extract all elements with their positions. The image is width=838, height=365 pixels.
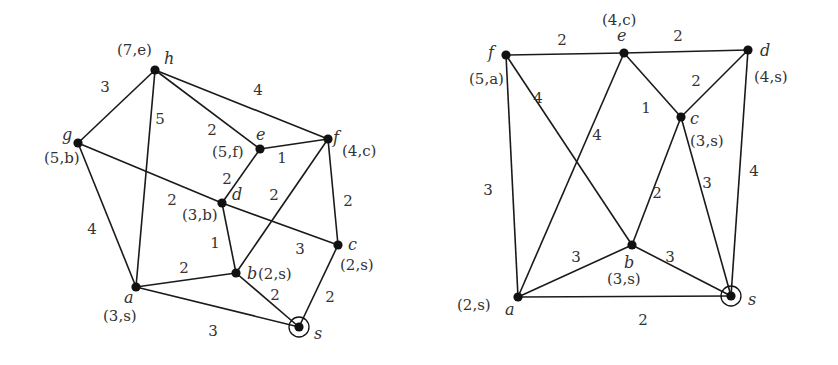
vertex-label-f: f (332, 128, 342, 147)
vertex-f (501, 50, 510, 59)
vertex-label-b: b (247, 264, 257, 283)
edge-weight-c-d: 2 (691, 72, 701, 90)
vertex-tag-f: (5,a) (469, 70, 504, 88)
vertex-tag-b: (3,s) (607, 270, 641, 288)
right-graph: 2212443234332 f(5,a)e(4,c)d(4,s)c(3,s)b(… (457, 11, 788, 329)
edge-weight-f-b: 4 (533, 89, 543, 107)
vertex-e (619, 48, 628, 57)
edge-e-c (624, 53, 681, 117)
vertex-tag-e: (4,c) (602, 11, 636, 29)
graph-canvas: 3524423212212322 h(7,e)g(5,b)e(5,f)f(4,c… (0, 0, 838, 365)
edge-weight-h-f: 4 (253, 81, 263, 99)
vertex-tag-a: (3,s) (103, 307, 137, 325)
edge-weight-a-b: 3 (571, 248, 581, 266)
edge-h-g (78, 70, 155, 143)
vertex-tag-g: (5,b) (44, 149, 80, 167)
vertex-label-g: g (62, 125, 72, 144)
edge-weight-c-s: 3 (702, 174, 712, 192)
edge-c-s (299, 245, 338, 327)
edge-e-f (260, 139, 328, 149)
vertex-tag-c: (3,s) (690, 132, 724, 150)
vertex-label-f: f (487, 43, 497, 62)
edge-weight-f-a: 3 (483, 181, 493, 199)
vertex-tag-h: (7,e) (117, 41, 152, 59)
edge-d-b (222, 203, 236, 273)
edge-g-a (78, 143, 136, 287)
edge-weight-c-b: 2 (652, 184, 662, 202)
vertex-s (726, 291, 735, 300)
edge-weight-h-g: 3 (100, 78, 110, 96)
edge-weight-b-s: 3 (665, 248, 675, 266)
vertex-label-s: s (314, 324, 322, 343)
edge-weight-e-c: 1 (641, 99, 651, 117)
edge-weight-e-d: 2 (222, 170, 232, 188)
edge-weight-d-s: 4 (749, 162, 759, 180)
vertex-tag-a: (2,s) (457, 296, 491, 314)
vertex-tag-d: (4,s) (754, 68, 788, 86)
vertex-e (255, 144, 264, 153)
edge-weight-a-b: 2 (179, 259, 189, 277)
vertex-tag-e: (5,f) (212, 143, 244, 161)
vertex-label-d: d (232, 185, 242, 204)
edge-weight-f-b: 2 (269, 186, 279, 204)
edge-h-a (136, 70, 155, 287)
left-graph-edges (78, 70, 338, 327)
edge-weight-h-a: 5 (155, 110, 165, 128)
vertex-b (231, 268, 240, 277)
vertex-f (323, 134, 332, 143)
vertex-label-c: c (690, 109, 699, 128)
vertex-c (333, 240, 342, 249)
vertex-b (627, 240, 636, 249)
vertex-tag-b: (2,s) (258, 265, 292, 283)
vertex-label-c: c (348, 235, 357, 254)
edge-h-f (155, 70, 328, 139)
edge-f-e (506, 53, 624, 55)
vertex-label-h: h (164, 49, 174, 68)
vertex-label-e: e (256, 125, 265, 144)
edge-weight-e-f: 1 (277, 149, 287, 167)
edge-b-s (632, 245, 731, 296)
vertex-tag-c: (2,s) (340, 256, 374, 274)
edge-weight-g-a: 4 (87, 220, 97, 238)
vertex-c (676, 112, 685, 121)
edge-f-a (506, 55, 518, 297)
edge-d-s (731, 50, 748, 296)
edge-f-c (328, 139, 338, 245)
left-graph: 3524423212212322 h(7,e)g(5,b)e(5,f)f(4,c… (44, 41, 376, 343)
edge-g-d (78, 143, 222, 203)
right-graph-vertices: f(5,a)e(4,c)d(4,s)c(3,s)b(3,s)a(2,s)s (457, 11, 788, 319)
edge-weight-d-c: 3 (295, 240, 305, 258)
vertex-label-d: d (760, 41, 770, 60)
edge-weight-e-a: 4 (592, 126, 602, 144)
edge-weight-c-s: 2 (325, 288, 335, 306)
edge-weight-d-b: 1 (210, 234, 220, 252)
edge-weight-g-d: 2 (167, 191, 177, 209)
edge-e-d (624, 50, 748, 53)
edge-weight-e-d: 2 (673, 27, 683, 45)
edge-weight-h-e: 2 (207, 121, 217, 139)
edge-weight-b-s: 2 (270, 286, 280, 304)
vertex-d (743, 45, 752, 54)
vertex-label-a: a (124, 288, 134, 307)
edge-weight-a-s: 2 (638, 311, 648, 329)
vertex-h (150, 65, 159, 74)
vertex-label-a: a (505, 300, 515, 319)
vertex-tag-f: (4,c) (342, 142, 376, 160)
edge-f-b (506, 55, 632, 245)
vertex-a (513, 292, 522, 301)
vertex-d (217, 198, 226, 207)
vertex-g (73, 138, 82, 147)
vertex-label-s: s (748, 290, 756, 309)
vertex-s (294, 322, 303, 331)
vertex-tag-d: (3,b) (182, 206, 218, 224)
edge-c-b (632, 117, 681, 245)
edge-weight-f-e: 2 (557, 31, 567, 49)
edge-weight-f-c: 2 (343, 192, 353, 210)
edge-a-s (518, 296, 731, 297)
edge-weight-a-s: 3 (208, 322, 218, 340)
